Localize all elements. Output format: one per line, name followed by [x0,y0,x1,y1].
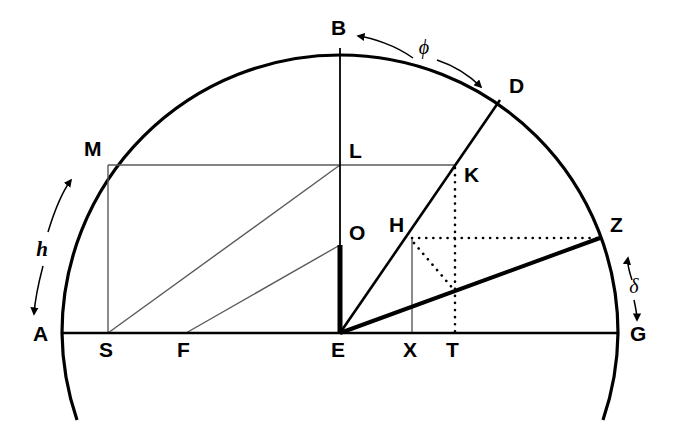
point-label-A: A [33,322,48,345]
point-label-B: B [331,16,346,39]
phi-label: ϕ [419,36,429,59]
diagram-canvas: ϕ δ h A B D E F G H K L M O S T [0,0,677,433]
dotted-line-H-to-EZ [414,243,455,291]
circle-arc-stub-right [603,333,618,420]
delta-arrow-to-G [634,300,637,320]
point-label-F: F [177,338,190,361]
h-arrow-to-A [34,266,43,314]
h-arrow-to-M [48,180,71,232]
ray-E-K-D [340,100,500,333]
delta-label: δ [629,275,639,297]
point-label-K: K [464,163,479,186]
circle-arc-stub-left [62,333,77,420]
thin-construction-lines [108,48,455,333]
annotation-phi: ϕ [358,36,481,87]
point-label-L: L [349,139,362,162]
point-label-H: H [389,213,404,236]
point-label-O: O [349,221,365,244]
ray-E-Z [340,238,600,333]
point-label-E: E [331,338,345,361]
point-label-Z: Z [610,213,623,236]
h-label: h [36,237,48,261]
line-F-O [186,245,340,333]
dotted-lines-group [412,168,600,333]
point-label-G: G [630,322,646,345]
point-label-M: M [84,137,102,160]
line-S-L [108,165,340,333]
point-label-S: S [99,338,113,361]
point-label-D: D [509,74,524,97]
point-label-T: T [446,338,459,361]
point-label-X: X [403,338,417,361]
geometric-diagram: ϕ δ h A B D E F G H K L M O S T [0,0,677,433]
annotation-delta: δ [628,258,640,320]
